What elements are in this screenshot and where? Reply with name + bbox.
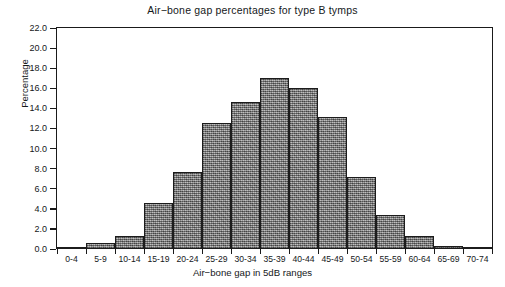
bar-series [57, 28, 492, 249]
x-axis-tick-label: 70-74 [463, 254, 492, 264]
y-axis-tick: 22.0 [0, 22, 56, 34]
y-axis-tick: 20.0 [0, 42, 56, 54]
x-axis-tick-label: 35-39 [260, 254, 289, 264]
bar [289, 88, 318, 249]
y-axis-tick-label: 6.0 [34, 183, 47, 195]
bar [260, 78, 289, 249]
bar-slot [202, 28, 231, 249]
y-axis-tick: 18.0 [0, 62, 56, 74]
x-axis-tick-label: 15-19 [144, 254, 173, 264]
bar-slot [463, 28, 492, 249]
bar [202, 123, 231, 249]
x-axis-tick-label: 10-14 [115, 254, 144, 264]
x-axis-tick-label: 40-44 [289, 254, 318, 264]
bar-slot [405, 28, 434, 249]
x-axis-tick-mark [492, 249, 493, 254]
y-axis-tick-label: 22.0 [29, 22, 47, 34]
y-axis-tick: 2.0 [0, 223, 56, 235]
bar [376, 215, 405, 249]
y-axis-tick-label: 16.0 [29, 82, 47, 94]
x-axis-tick-label: 5-9 [86, 254, 115, 264]
chart-title: Air−bone gap percentages for type B tymp… [0, 4, 505, 16]
bar [115, 236, 144, 249]
x-axis-tick-labels: 0-45-910-1415-1920-2425-2930-3435-3940-4… [57, 254, 492, 268]
y-axis-tick: 12.0 [0, 122, 56, 134]
bar [318, 117, 347, 249]
x-axis-tick-label: 20-24 [173, 254, 202, 264]
y-axis-tick: 8.0 [0, 163, 56, 175]
x-axis-tick-label: 30-34 [231, 254, 260, 264]
y-axis-tick: 6.0 [0, 183, 56, 195]
y-axis-tick: 4.0 [0, 203, 56, 215]
bar-slot [347, 28, 376, 249]
y-axis-tick-label: 10.0 [29, 143, 47, 155]
bar [144, 203, 173, 249]
bar [173, 172, 202, 249]
bar [347, 177, 376, 249]
y-axis-tick: 14.0 [0, 102, 56, 114]
x-axis-tick-label: 55-59 [376, 254, 405, 264]
y-axis-tick-label: 18.0 [29, 62, 47, 74]
y-axis-tick-label: 20.0 [29, 42, 47, 54]
bar [405, 236, 434, 249]
y-axis-tick-label: 0.0 [34, 243, 47, 255]
bar [231, 102, 260, 249]
bar-slot [289, 28, 318, 249]
bar-slot [231, 28, 260, 249]
histogram-figure: Air−bone gap percentages for type B tymp… [0, 0, 505, 287]
bar-slot [434, 28, 463, 249]
y-axis-tick-label: 4.0 [34, 203, 47, 215]
y-axis-tick: 0.0 [0, 243, 56, 255]
y-axis-ticks: 0.02.04.06.08.010.012.014.016.018.020.02… [0, 0, 56, 249]
x-axis-tick-label: 50-54 [347, 254, 376, 264]
bar-slot [57, 28, 86, 249]
x-axis-tick-label: 65-69 [434, 254, 463, 264]
x-axis-title: Air−bone gap in 5dB ranges [0, 267, 505, 278]
x-axis-tick-label: 0-4 [57, 254, 86, 264]
x-axis-tick-label: 60-64 [405, 254, 434, 264]
y-axis-tick-label: 12.0 [29, 122, 47, 134]
y-axis-tick-label: 8.0 [34, 163, 47, 175]
bar-slot [115, 28, 144, 249]
bar-slot [318, 28, 347, 249]
x-axis-tick-label: 25-29 [202, 254, 231, 264]
bar-slot [376, 28, 405, 249]
y-axis-tick-label: 14.0 [29, 102, 47, 114]
y-axis-tick: 16.0 [0, 82, 56, 94]
bar-slot [260, 28, 289, 249]
y-axis-tick: 10.0 [0, 143, 56, 155]
bar-slot [173, 28, 202, 249]
x-axis-tick-label: 45-49 [318, 254, 347, 264]
y-axis-tick-label: 2.0 [34, 223, 47, 235]
bar-slot [144, 28, 173, 249]
bar-slot [86, 28, 115, 249]
